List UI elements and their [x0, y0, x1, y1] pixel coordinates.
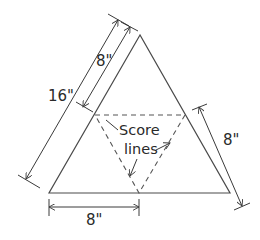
label-lines: lines: [124, 141, 158, 157]
label-right-8in: 8": [223, 131, 239, 149]
dimension-right-8in: [192, 104, 250, 210]
label-score: Score: [119, 122, 160, 138]
outer-triangle: [49, 35, 230, 193]
label-16in: 16": [48, 87, 74, 105]
label-upper-8in: 8": [96, 52, 112, 70]
triangle-diagram: 16" 8" 8" 8" Score lines: [0, 0, 260, 240]
label-bottom-8in: 8": [86, 211, 102, 229]
